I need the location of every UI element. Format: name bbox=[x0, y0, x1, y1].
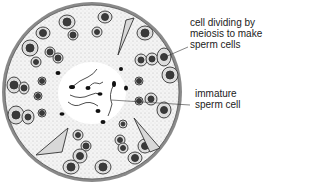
lumen bbox=[58, 62, 126, 124]
label-immature-sperm: immature sperm cell bbox=[195, 88, 241, 110]
label-meiosis: cell dividing by meiosis to make sperm c… bbox=[190, 17, 262, 50]
